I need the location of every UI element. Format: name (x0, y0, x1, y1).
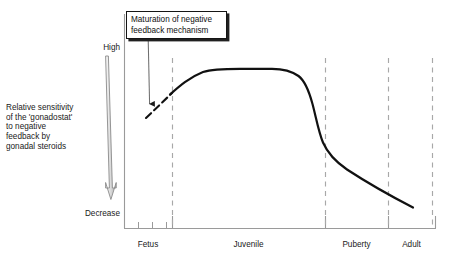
y-axis-caption: Relative sensitivity of the 'gonadostat'… (6, 103, 102, 151)
callout-line-2: feedback mechanism (131, 26, 227, 37)
maturation-callout-box: Maturation of negative feedback mechanis… (126, 11, 227, 39)
x-axis-label-juvenile: Juvenile (172, 240, 325, 250)
y-axis-decrease-label: Decrease (66, 209, 120, 219)
y-axis-caption-line-1: Relative sensitivity (6, 103, 102, 113)
x-axis-category-ticks (173, 216, 436, 228)
y-axis-caption-line-2: of the 'gonadostat' (6, 113, 102, 123)
x-axis-label-fetus: Fetus (124, 240, 172, 250)
y-axis-high-label: High (76, 43, 120, 53)
sensitivity-direction-arrow (106, 56, 117, 200)
callout-line-1: Maturation of negative (131, 15, 227, 26)
y-axis-caption-line-5: gonadal steroids (6, 142, 102, 152)
maturation-callout-text: Maturation of negative feedback mechanis… (131, 15, 227, 36)
stage-dividers (173, 58, 433, 226)
gonadostat-sensitivity-figure: Maturation of negative feedback mechanis… (0, 0, 453, 260)
x-axis-label-puberty: Puberty (325, 240, 388, 250)
callout-leader-line (148, 39, 149, 104)
y-axis-caption-line-4: feedback by (6, 132, 102, 142)
x-axis-label-adult: Adult (388, 240, 435, 250)
y-axis-caption-line-3: to negative (6, 122, 102, 132)
sensitivity-curve (170, 69, 413, 208)
x-axis-minor-ticks (139, 222, 167, 228)
